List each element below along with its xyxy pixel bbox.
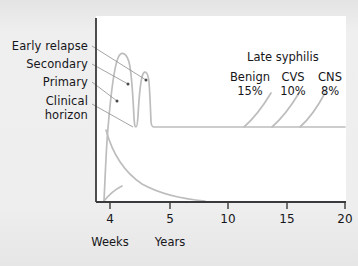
late-column-cns-percent: 8% (311, 84, 349, 98)
late-column-cvs-name: CVS (274, 70, 312, 84)
x-axis-ticks (110, 202, 345, 209)
dot-secondary (127, 83, 130, 86)
branch-cns (300, 93, 325, 127)
x-tick-label-5: 5 (156, 212, 184, 226)
late-column-benign: Benign 15% (222, 70, 278, 98)
branch-benign (244, 93, 271, 127)
late-column-cvs-percent: 10% (274, 84, 312, 98)
late-syphilis-title: Late syphilis (247, 50, 319, 64)
late-column-benign-name: Benign (222, 70, 278, 84)
leader-clinical (92, 104, 133, 127)
label-primary: Primary (0, 76, 88, 90)
origin-foot-curve (104, 186, 122, 201)
branch-cvs (272, 93, 299, 127)
x-tick-label-10: 10 (214, 212, 242, 226)
leader-secondary (92, 64, 128, 84)
label-clinical-horizon-line1: Clinical (0, 95, 88, 109)
label-clinical-horizon-line2: horizon (0, 109, 88, 123)
x-tick-label-15: 15 (273, 212, 301, 226)
late-column-benign-percent: 15% (222, 84, 278, 98)
dot-primary (116, 100, 119, 103)
x-tick-label-4: 4 (96, 212, 124, 226)
late-column-cns-name: CNS (311, 70, 349, 84)
x-unit-label-weeks: Weeks (84, 235, 136, 249)
syphilis-natural-history-figure: Early relapse Secondary Primary Clinical… (0, 0, 358, 266)
label-early-relapse: Early relapse (0, 40, 88, 54)
leader-early-relapse (92, 46, 146, 80)
label-secondary: Secondary (0, 58, 88, 72)
x-tick-label-20: 20 (331, 212, 358, 226)
dot-early-relapse (145, 79, 148, 82)
late-column-cns: CNS 8% (311, 70, 349, 98)
secondary-decay-curve (106, 130, 205, 201)
x-unit-label-years: Years (146, 235, 194, 249)
late-column-cvs: CVS 10% (274, 70, 312, 98)
label-clinical-horizon: Clinical horizon (0, 95, 88, 122)
